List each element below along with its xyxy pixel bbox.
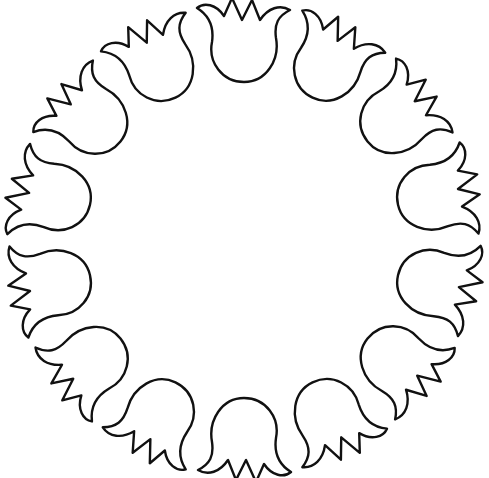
tulip-ring-drawing <box>0 0 489 478</box>
tulip-icon <box>0 141 100 250</box>
tulip-icon <box>388 229 489 338</box>
tulip-icon <box>0 230 100 339</box>
tulip-icon <box>198 398 291 478</box>
tulip-icon <box>388 140 489 249</box>
tulip-icon <box>197 0 290 82</box>
tulip-ring <box>0 0 489 478</box>
